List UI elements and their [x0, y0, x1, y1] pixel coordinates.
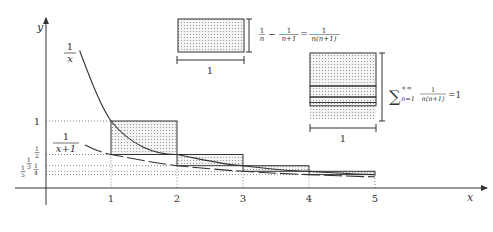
svg-text:1: 1: [260, 27, 264, 35]
y-axis-label: y: [36, 21, 44, 34]
y-tick-labels: 1 1 2 1 3 1 4 1 5: [21, 116, 41, 178]
svg-text:=1: =1: [448, 90, 461, 100]
curve-label-one-over-x-plus-one: 1 x+1: [53, 131, 79, 154]
y-tick-half-num: 1: [35, 145, 39, 152]
svg-text:1: 1: [431, 86, 435, 94]
sum-rectangles: [111, 121, 375, 175]
y-tick-1: 1: [34, 116, 40, 127]
inset-single-formula: 1 n − 1 n+1 = 1 n(n+1): [259, 27, 340, 43]
y-tick-half-den: 2: [35, 152, 39, 159]
svg-text:∑: ∑: [389, 87, 401, 106]
svg-text:n=1: n=1: [401, 95, 415, 103]
inset-stacked-rectangles: 1 ∑ +∞ n=1 1 n(n+1) =1: [310, 53, 461, 144]
svg-text:n(n+1): n(n+1): [312, 35, 337, 43]
y-tick-third-den: 3: [27, 163, 31, 170]
inset-stack-formula: ∑ +∞ n=1 1 n(n+1) =1: [389, 84, 461, 106]
svg-text:n+1: n+1: [282, 35, 297, 43]
y-tick-quarter-den: 4: [34, 169, 38, 176]
inset-stack-width-label: 1: [340, 133, 346, 144]
svg-text:−: −: [268, 29, 276, 39]
rectangle-n1: [111, 121, 177, 155]
inset-single-width-label: 1: [207, 65, 213, 76]
svg-text:1: 1: [67, 41, 73, 52]
x-tick-5: 5: [372, 193, 378, 204]
svg-text:1: 1: [322, 27, 326, 35]
svg-text:x+1: x+1: [56, 143, 76, 154]
y-tick-third-num: 1: [27, 156, 31, 163]
svg-text:=: =: [300, 29, 308, 39]
x-tick-2: 2: [174, 193, 180, 204]
svg-text:n(n+1): n(n+1): [421, 95, 444, 103]
svg-text:1: 1: [63, 131, 69, 142]
x-tick-1: 1: [108, 193, 114, 204]
svg-text:+∞: +∞: [401, 84, 412, 92]
y-tick-fifth-num: 1: [21, 164, 25, 171]
x-tick-4: 4: [306, 193, 312, 204]
x-tick-3: 3: [240, 193, 246, 204]
svg-text:1: 1: [287, 27, 291, 35]
svg-text:n: n: [260, 35, 265, 43]
svg-text:x: x: [67, 53, 73, 64]
x-axis-label: x: [467, 191, 474, 204]
curve-label-one-over-x: 1 x: [64, 41, 76, 64]
y-tick-quarter-num: 1: [34, 162, 38, 169]
diagram-canvas: y x 1 2 3 4 5 1 1 2 1 3 1 4 1 5 1 x 1 x+…: [0, 0, 493, 232]
y-tick-fifth-den: 5: [21, 171, 25, 178]
x-tick-labels: 1 2 3 4 5: [108, 193, 378, 204]
